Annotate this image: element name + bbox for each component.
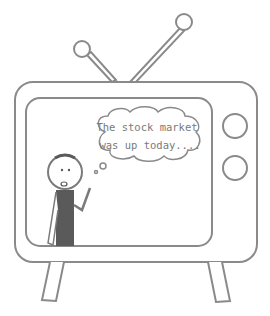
- knob-icon: [223, 114, 247, 138]
- bubble-text-line2: was up today....: [99, 139, 200, 151]
- tv-legs: [42, 262, 230, 302]
- tv-illustration: The stock market was up today....: [0, 0, 270, 316]
- bubble-text-line1: The stock market: [96, 121, 197, 133]
- antenna-icon: [74, 14, 192, 83]
- knob-icon: [223, 156, 247, 180]
